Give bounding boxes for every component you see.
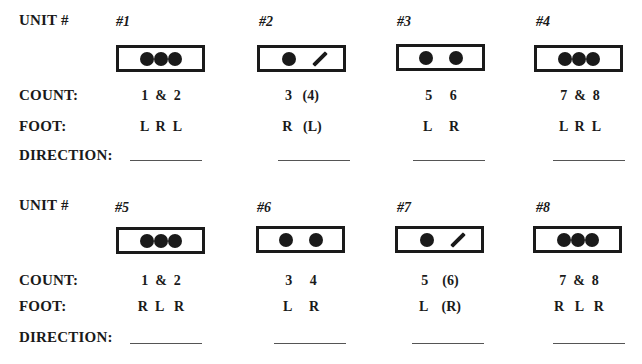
unit-number-5: #5: [115, 200, 129, 216]
unit-number-6: #6: [257, 200, 271, 216]
dot-icon: [419, 51, 433, 65]
dot-icon: [140, 52, 154, 66]
dot-icon: [572, 52, 586, 66]
direction-blank-2[interactable]: [278, 160, 350, 161]
step-pattern-three-dots: [533, 226, 622, 253]
dot-icon: [168, 234, 182, 248]
unit-number-4: #4: [536, 14, 550, 30]
unit-label-row2: UNIT #: [19, 197, 69, 214]
dot-icon: [558, 52, 572, 66]
slash-icon: [450, 232, 466, 248]
step-pattern-dot-slash: [395, 226, 484, 253]
unit-number-7: #7: [397, 200, 411, 216]
step-pattern-three-dots: [116, 227, 205, 254]
dot-icon: [279, 233, 293, 247]
count-label-row1: COUNT:: [19, 87, 78, 104]
dot-icon: [571, 233, 585, 247]
step-pattern-two-dots: [256, 226, 345, 253]
direction-blank-1[interactable]: [130, 160, 202, 161]
direction-blank-3[interactable]: [413, 160, 485, 161]
unit-number-2: #2: [259, 14, 273, 30]
unit-number-3: #3: [397, 14, 411, 30]
foot-value-6: L R: [251, 299, 351, 315]
foot-value-1: L R L: [111, 119, 211, 135]
slash-icon: [312, 51, 328, 67]
dot-icon: [309, 233, 323, 247]
count-value-3: 5 6: [391, 88, 491, 104]
foot-label-row2: FOOT:: [19, 298, 66, 315]
foot-label-row1: FOOT:: [19, 118, 66, 135]
dot-icon: [449, 51, 463, 65]
unit-number-1: #1: [116, 14, 130, 30]
foot-value-3: L R: [391, 119, 491, 135]
dot-icon: [154, 52, 168, 66]
count-value-6: 3 4: [251, 273, 351, 289]
dot-icon: [586, 52, 600, 66]
dot-icon: [168, 52, 182, 66]
count-value-1: 1 & 2: [111, 88, 211, 104]
direction-label-row1: DIRECTION:: [19, 147, 113, 164]
foot-value-2: R (L): [252, 119, 352, 135]
count-value-8: 7 & 8: [529, 273, 629, 289]
unit-label-row1: UNIT #: [19, 12, 69, 29]
direction-label-row2: DIRECTION:: [19, 329, 113, 346]
step-pattern-dot-slash: [257, 45, 346, 72]
direction-blank-6[interactable]: [274, 343, 346, 344]
foot-value-5: R L R: [111, 299, 211, 315]
dot-icon: [140, 234, 154, 248]
count-value-5: 1 & 2: [111, 273, 211, 289]
unit-number-8: #8: [536, 200, 550, 216]
count-value-4: 7 & 8: [530, 88, 630, 104]
direction-blank-4[interactable]: [553, 160, 625, 161]
count-value-2: 3 (4): [252, 88, 352, 104]
dot-icon: [585, 233, 599, 247]
dot-icon: [557, 233, 571, 247]
direction-blank-8[interactable]: [553, 343, 625, 344]
foot-value-4: L R L: [530, 119, 630, 135]
count-label-row2: COUNT:: [19, 272, 78, 289]
direction-blank-7[interactable]: [412, 343, 484, 344]
dot-icon: [420, 233, 434, 247]
count-value-7: 5 (6): [390, 273, 490, 289]
step-pattern-three-dots: [116, 45, 205, 72]
direction-blank-5[interactable]: [130, 343, 202, 344]
foot-value-8: R L R: [529, 299, 629, 315]
dot-icon: [282, 52, 296, 66]
foot-value-7: L (R): [390, 299, 490, 315]
step-pattern-three-dots: [534, 45, 623, 72]
dot-icon: [154, 234, 168, 248]
step-pattern-two-dots: [396, 44, 485, 71]
